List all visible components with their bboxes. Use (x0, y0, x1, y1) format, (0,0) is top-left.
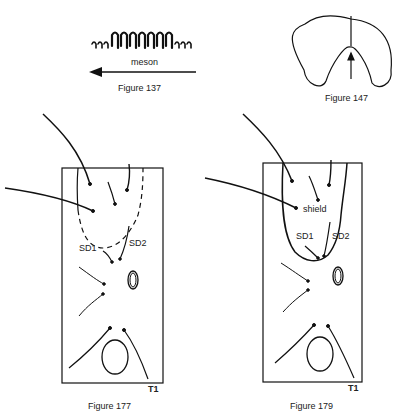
fig179-diagram (205, 114, 362, 382)
fig179-shield-label: shield (303, 204, 327, 214)
fig147-outline (292, 16, 391, 87)
fig179-caption: Figure 179 (290, 401, 333, 411)
fig137-comb (92, 33, 191, 49)
fig179-sd2-label: SD2 (332, 231, 350, 241)
fig179-sd1-label: SD1 (296, 231, 314, 241)
fig147-caption: Figure 147 (325, 93, 368, 103)
figure-plate (0, 0, 394, 414)
fig177-sd2-label: SD2 (129, 238, 147, 248)
fig179-t1-label: T1 (348, 383, 359, 393)
fig177-caption: Figure 177 (88, 401, 131, 411)
fig177-sd1-label: SD1 (79, 243, 97, 253)
fig137-caption: Figure 137 (118, 83, 161, 93)
fig137-arrow-icon (89, 67, 196, 77)
fig137-arrow-label: meson (131, 57, 158, 67)
fig177-t1-label: T1 (148, 384, 159, 394)
